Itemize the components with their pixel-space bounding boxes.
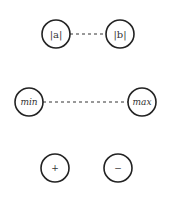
node-abs-a-label: |a| xyxy=(50,29,63,41)
node-min: min xyxy=(15,88,43,116)
node-max-label: max xyxy=(133,97,152,107)
node-abs-b-label: |b| xyxy=(113,29,126,41)
node-max: max xyxy=(128,88,156,116)
node-plus: + xyxy=(41,154,69,182)
node-plus-label: + xyxy=(51,163,59,173)
node-minus-label: − xyxy=(114,163,122,173)
diagram-canvas: |a| |b| min max + − xyxy=(0,0,172,197)
node-abs-a: |a| xyxy=(42,20,70,48)
node-min-label: min xyxy=(20,97,37,107)
node-minus: − xyxy=(104,154,132,182)
node-abs-b: |b| xyxy=(106,20,134,48)
